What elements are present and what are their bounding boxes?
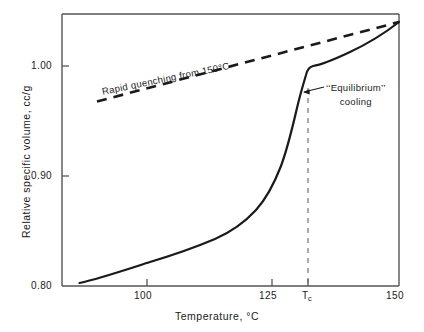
y-axis-title: Relative specific volume, cc/g bbox=[20, 85, 32, 238]
equilibrium-cooling-curve bbox=[80, 22, 400, 283]
tc-subscript-text: c bbox=[308, 294, 312, 303]
x-tick-label-tc: Tc bbox=[302, 290, 312, 301]
axes-frame bbox=[62, 14, 399, 286]
y-tick-label-0.90: 0.90 bbox=[31, 170, 52, 181]
x-tick-label-100: 100 bbox=[134, 290, 152, 301]
equilibrium-label-line2: cooling bbox=[326, 95, 386, 109]
equilibrium-cooling-label: ‘‘Equilibrium’’ cooling bbox=[326, 81, 386, 109]
x-tick-label-150: 150 bbox=[386, 290, 404, 301]
equilibrium-leader-line bbox=[303, 87, 324, 95]
equilibrium-label-line1: ‘‘Equilibrium’’ bbox=[326, 81, 386, 95]
chart-plot-area bbox=[0, 0, 424, 332]
x-axis-title: Temperature, °C bbox=[175, 310, 259, 322]
y-tick-label-0.80: 0.80 bbox=[31, 280, 52, 291]
x-tick-label-125: 125 bbox=[259, 290, 277, 301]
y-tick-label-1.00: 1.00 bbox=[31, 60, 52, 71]
x-axis-ticks bbox=[147, 279, 308, 286]
chart-figure: 1.00 0.90 0.80 100 125 150 Tc Temperatur… bbox=[0, 0, 424, 332]
y-axis-ticks bbox=[62, 66, 69, 176]
